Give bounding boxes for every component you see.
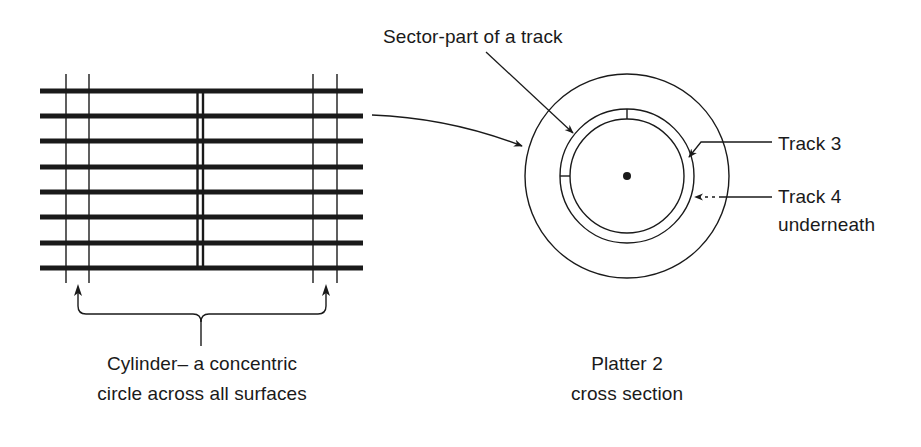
track4-label-line2: underneath [778, 214, 875, 236]
track4-label-line1: Track 4 [778, 186, 841, 208]
sector-leader [486, 52, 573, 133]
spindle-center-dot [623, 172, 631, 180]
cylinder-caption-line2: circle across all surfaces [97, 383, 307, 405]
cylinder-caption-line1: Cylinder– a concentric [107, 353, 297, 375]
connector-arrow [372, 115, 522, 146]
platter-cross-section [486, 52, 772, 278]
cylinder-lines [66, 74, 337, 283]
cylinder-brace [74, 284, 330, 346]
platter-caption-line1: Platter 2 [591, 353, 663, 375]
track3-label: Track 3 [778, 133, 841, 155]
platter-stack [40, 74, 363, 346]
track3-leader [689, 142, 772, 157]
sector-label: Sector-part of a track [383, 26, 563, 48]
brace-path [78, 288, 326, 322]
platter-caption-line2: cross section [571, 383, 683, 405]
